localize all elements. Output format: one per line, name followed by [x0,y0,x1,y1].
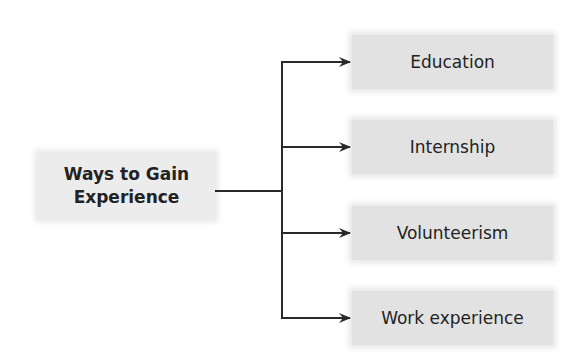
root-label-line2: Experience [64,186,189,209]
node-internship: Internship [352,120,553,174]
root-node: Ways to Gain Experience [38,153,215,219]
node-label: Internship [410,137,496,157]
node-label: Work experience [381,308,524,328]
node-work-experience: Work experience [352,291,553,345]
node-label: Volunteerism [397,223,509,243]
node-volunteerism: Volunteerism [352,206,553,260]
node-education: Education [352,35,553,89]
node-label: Education [410,52,495,72]
root-label-line1: Ways to Gain [64,163,189,186]
